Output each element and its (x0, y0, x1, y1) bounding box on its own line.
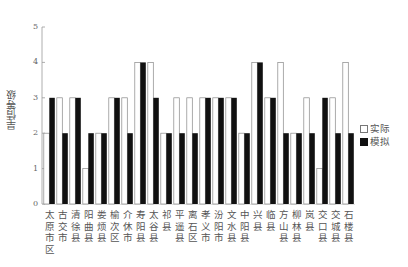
bar-simulated (244, 133, 250, 204)
bar-actual (135, 62, 141, 204)
bar-simulated (192, 133, 198, 204)
bar-simulated (296, 133, 302, 204)
bar-actual (83, 169, 89, 204)
x-tick-label: 方山县 (278, 209, 291, 244)
x-tick-label: 太原市区 (44, 209, 57, 255)
bar-actual (330, 98, 336, 204)
x-tick-label: 石楼县 (343, 209, 356, 244)
bar-actual (278, 62, 284, 204)
bar-actual (317, 169, 323, 204)
x-tick-label: 太谷县 (148, 209, 161, 244)
x-tick-label: 交口县 (317, 209, 330, 244)
x-tick-label: 祁县 (161, 209, 174, 232)
x-tick-label: 兴县 (252, 209, 265, 232)
bar-actual (265, 98, 271, 204)
bar-actual (239, 133, 245, 204)
bar-actual (187, 98, 193, 204)
bar-actual (70, 98, 76, 204)
bar-simulated (179, 133, 185, 204)
x-tick-label: 介休市 (122, 209, 135, 244)
y-tick-label: 0 (28, 199, 38, 208)
bar-actual (96, 133, 102, 204)
bar-simulated (101, 133, 107, 204)
bar-simulated (62, 133, 68, 204)
bar-actual (161, 133, 167, 204)
bar-simulated (166, 133, 172, 204)
bar-simulated (153, 98, 159, 204)
bar-actual (200, 98, 206, 204)
bar-simulated (283, 133, 289, 204)
x-tick-label: 临县 (265, 209, 278, 232)
x-tick-label: 平遥县 (174, 209, 187, 244)
bar-actual (122, 98, 128, 204)
bar-simulated (114, 98, 120, 204)
white-swatch-icon (360, 125, 368, 133)
x-tick-label: 岚县 (304, 209, 317, 232)
bar-actual (252, 62, 257, 204)
bar-actual (226, 98, 232, 204)
bar-simulated (322, 98, 328, 204)
bar-actual (174, 98, 180, 204)
x-tick-label: 阳曲县 (83, 209, 96, 244)
y-tick-label: 3 (28, 93, 38, 102)
x-tick-label: 汾阳市 (213, 209, 226, 244)
bar-simulated (75, 98, 81, 204)
bar-simulated (205, 98, 211, 204)
x-tick-label: 寿阳县 (135, 209, 148, 244)
x-tick-label: 交城县 (330, 209, 343, 244)
legend: 实际 模拟 (360, 122, 390, 148)
y-axis-label: 旱情等级 (6, 90, 20, 130)
x-tick-label: 榆次区 (109, 209, 122, 244)
y-tick-label: 2 (28, 128, 38, 137)
bar-simulated (49, 98, 55, 204)
bar-simulated (127, 133, 133, 204)
bar-simulated (257, 62, 263, 204)
bar-actual (44, 133, 50, 204)
bar-actual (343, 62, 349, 204)
x-tick-label: 古交市 (57, 209, 70, 244)
x-tick-label: 离石区 (187, 209, 200, 244)
x-tick-label: 孝义市 (200, 209, 213, 244)
bar-actual (304, 98, 310, 204)
x-tick-label: 娄烦县 (96, 209, 109, 244)
legend-item-actual: 实际 (360, 122, 390, 135)
bar-simulated (348, 133, 354, 204)
legend-item-simulated: 模拟 (360, 135, 390, 148)
bar-simulated (88, 133, 94, 204)
x-tick-label: 柳林县 (291, 209, 304, 244)
y-tick-label: 4 (28, 57, 38, 66)
bar-actual (148, 62, 154, 204)
bar-actual (109, 98, 115, 204)
bar-simulated (140, 62, 146, 204)
x-tick-label: 清徐县 (70, 209, 83, 244)
bar-simulated (231, 98, 237, 204)
bar-simulated (270, 98, 276, 204)
legend-label-actual: 实际 (370, 122, 390, 135)
black-swatch-icon (360, 138, 368, 146)
bar-actual (213, 98, 219, 204)
legend-label-simulated: 模拟 (370, 135, 390, 148)
bar-actual (57, 98, 63, 204)
bar-simulated (218, 98, 224, 204)
bar-actual (291, 133, 297, 204)
y-tick-label: 1 (28, 164, 38, 173)
bar-simulated (309, 133, 315, 204)
y-tick-label: 5 (28, 22, 38, 31)
x-tick-label: 中阳县 (239, 209, 252, 244)
bar-simulated (335, 133, 341, 204)
x-tick-label: 文水县 (226, 209, 239, 244)
